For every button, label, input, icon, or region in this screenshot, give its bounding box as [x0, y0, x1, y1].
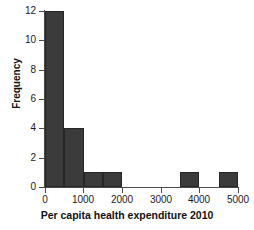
- y-tick-8: [39, 70, 44, 71]
- histogram-bar: [45, 11, 64, 187]
- y-tick-0: [39, 187, 44, 188]
- x-tick-1000: [83, 188, 84, 193]
- x-tick-0: [45, 188, 46, 193]
- histogram-bar: [103, 172, 122, 187]
- x-tick-label-5000: 5000: [218, 195, 254, 205]
- x-axis-title: Per capita health expenditure 2010: [0, 209, 254, 221]
- x-tick-label-2000: 2000: [102, 195, 142, 205]
- y-tick-label-2: 2: [12, 153, 36, 163]
- x-axis-line: [44, 187, 239, 188]
- histogram-bar: [64, 128, 83, 187]
- y-tick-label-0: 0: [12, 182, 36, 192]
- histogram-bar: [180, 172, 199, 187]
- y-tick-4: [39, 128, 44, 129]
- y-tick-10: [39, 40, 44, 41]
- x-tick-5000: [238, 188, 239, 193]
- y-tick-label-4: 4: [12, 123, 36, 133]
- y-axis-title: Frequency: [11, 44, 22, 124]
- x-tick-label-0: 0: [25, 195, 65, 205]
- x-tick-3000: [161, 188, 162, 193]
- x-tick-4000: [199, 188, 200, 193]
- histogram-figure: 0 2 4 6 8 10 12 0 1000 2000 3000 4000 50…: [0, 0, 254, 230]
- x-tick-label-3000: 3000: [141, 195, 181, 205]
- y-tick-label-12: 12: [12, 6, 36, 16]
- histogram-bar: [84, 172, 103, 187]
- x-tick-label-1000: 1000: [63, 195, 103, 205]
- histogram-bar: [219, 172, 238, 187]
- y-tick-2: [39, 158, 44, 159]
- x-tick-2000: [122, 188, 123, 193]
- y-tick-6: [39, 99, 44, 100]
- x-tick-label-4000: 4000: [179, 195, 219, 205]
- y-tick-12: [39, 11, 44, 12]
